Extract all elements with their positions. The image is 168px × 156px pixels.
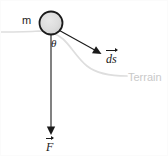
ds-vector-label: ds (106, 50, 117, 67)
terrain-label: Terrain (128, 72, 162, 83)
angle-theta-label: θ (51, 38, 56, 49)
ds-vector-text: ds (106, 52, 117, 66)
ds-vector-arrow-bar-icon (106, 50, 117, 51)
force-vector-label: F (46, 138, 53, 155)
mass-label: m (22, 15, 31, 26)
force-vector-text: F (46, 140, 53, 154)
force-vector-arrow-bar-icon (46, 138, 53, 139)
mass-ball (40, 12, 63, 35)
physics-diagram: m θ Terrain ds F (0, 0, 168, 156)
ds-arrowhead (92, 46, 102, 54)
force-arrowhead (47, 127, 55, 136)
